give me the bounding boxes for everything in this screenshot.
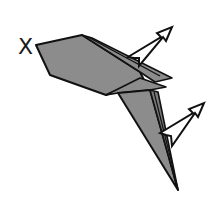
origami-figure [0,0,217,203]
point-marker-label: X [18,36,33,58]
paper-long-leg [118,90,178,190]
origami-diagram: X [0,0,217,203]
